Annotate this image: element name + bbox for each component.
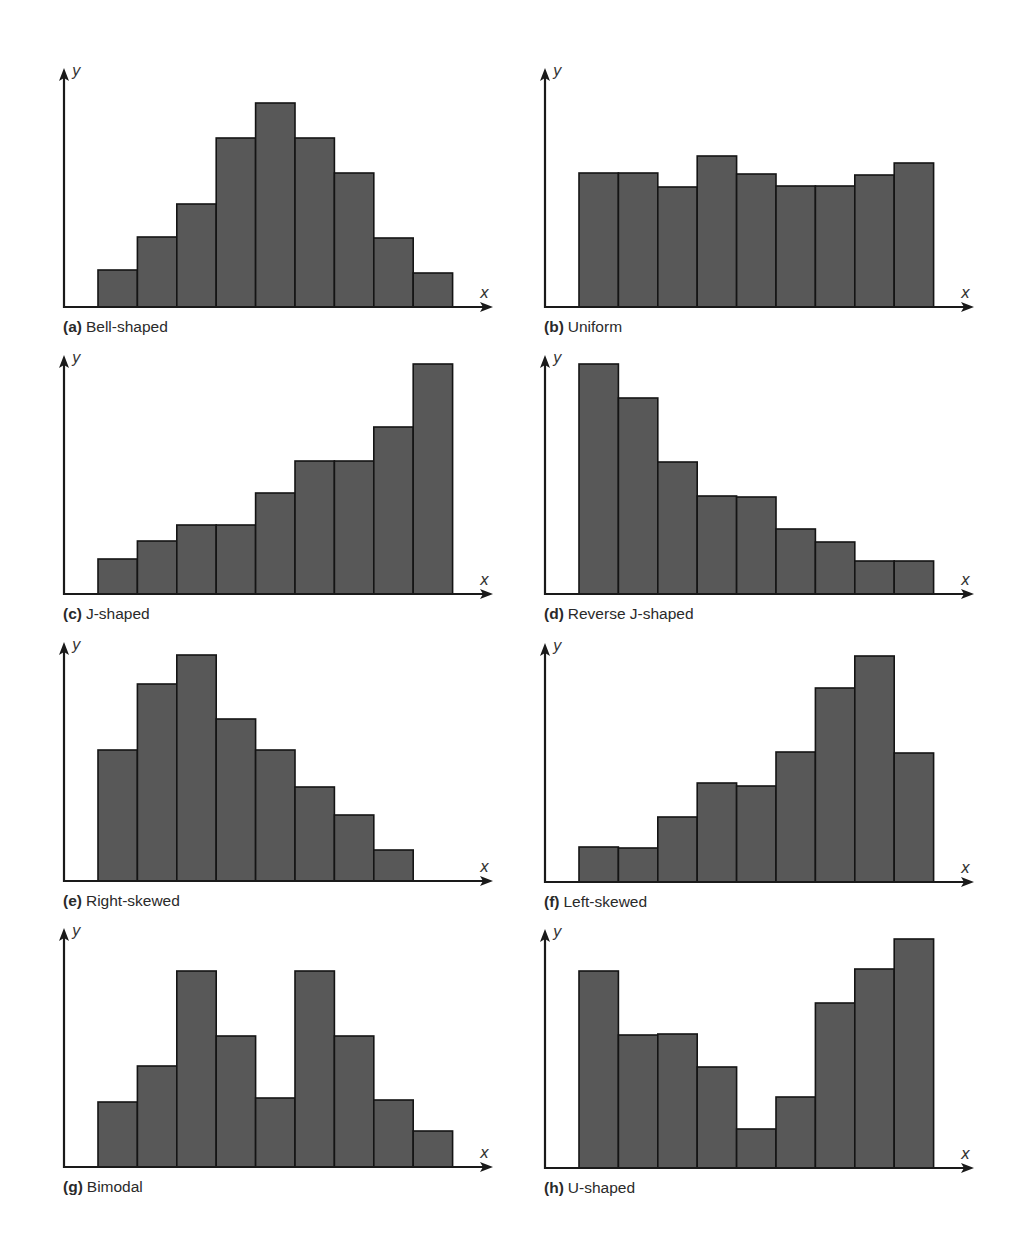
panel-caption: (c)J-shaped bbox=[63, 605, 150, 623]
panel-e: yx(e)Right-skewed bbox=[50, 636, 520, 921]
histogram-bar bbox=[334, 815, 373, 881]
histogram-bar bbox=[737, 1129, 776, 1168]
histogram-bar bbox=[137, 541, 176, 594]
histogram-plot bbox=[531, 62, 1001, 347]
histogram-bar bbox=[216, 1036, 255, 1167]
histogram-plot bbox=[50, 349, 520, 634]
histogram-bar bbox=[334, 1036, 373, 1167]
caption-tag: (e) bbox=[63, 892, 82, 909]
caption-title: U-shaped bbox=[568, 1179, 635, 1196]
histogram-bar bbox=[579, 173, 618, 307]
histogram-bar bbox=[413, 364, 452, 594]
histogram-bar bbox=[737, 174, 776, 307]
histogram-shapes-figure: yx(a)Bell-shaped yx(b)Uniform yx(c)J-sha… bbox=[0, 0, 1027, 1255]
panel-b: yx(b)Uniform bbox=[531, 62, 1001, 347]
y-axis-label: y bbox=[72, 636, 81, 654]
histogram-bar bbox=[374, 238, 413, 307]
caption-title: Bell-shaped bbox=[86, 318, 168, 335]
histogram-bar bbox=[618, 398, 657, 594]
panel-c: yx(c)J-shaped bbox=[50, 349, 520, 634]
histogram-bar bbox=[334, 173, 373, 307]
caption-tag: (d) bbox=[544, 605, 564, 622]
panel-f: yx(f)Left-skewed bbox=[531, 637, 1001, 922]
histogram-bar bbox=[216, 525, 255, 594]
histogram-bar bbox=[177, 204, 216, 307]
caption-tag: (c) bbox=[63, 605, 82, 622]
histogram-bar bbox=[98, 1102, 137, 1167]
histogram-plot bbox=[50, 636, 520, 921]
histogram-bar bbox=[256, 1098, 295, 1167]
caption-tag: (f) bbox=[544, 893, 560, 910]
x-axis-label: x bbox=[480, 284, 489, 302]
histogram-bar bbox=[894, 939, 933, 1168]
y-axis-label: y bbox=[553, 637, 562, 655]
x-axis-label: x bbox=[480, 1144, 489, 1162]
panel-caption: (e)Right-skewed bbox=[63, 892, 180, 910]
x-axis-label: x bbox=[961, 284, 970, 302]
caption-tag: (h) bbox=[544, 1179, 564, 1196]
histogram-bar bbox=[894, 753, 933, 882]
histogram-bar bbox=[894, 561, 933, 594]
histogram-bar bbox=[618, 1035, 657, 1168]
y-axis-label: y bbox=[72, 62, 81, 80]
y-axis-label: y bbox=[553, 349, 562, 367]
histogram-bar bbox=[256, 103, 295, 307]
histogram-bar bbox=[815, 688, 854, 882]
y-axis-label: y bbox=[72, 349, 81, 367]
caption-title: Right-skewed bbox=[86, 892, 180, 909]
caption-title: Reverse J-shaped bbox=[568, 605, 694, 622]
caption-title: Left-skewed bbox=[564, 893, 648, 910]
histogram-bar bbox=[618, 848, 657, 882]
panel-caption: (h)U-shaped bbox=[544, 1179, 635, 1197]
caption-title: Uniform bbox=[568, 318, 622, 335]
histogram-bar bbox=[697, 156, 736, 307]
panel-caption: (d)Reverse J-shaped bbox=[544, 605, 694, 623]
histogram-bar bbox=[334, 461, 373, 594]
histogram-bar bbox=[697, 783, 736, 882]
histogram-bar bbox=[776, 752, 815, 882]
panel-caption: (b)Uniform bbox=[544, 318, 622, 336]
histogram-bar bbox=[855, 175, 894, 307]
histogram-bar bbox=[776, 1097, 815, 1168]
histogram-plot bbox=[50, 922, 520, 1207]
histogram-bar bbox=[413, 273, 452, 307]
histogram-bar bbox=[776, 529, 815, 594]
x-axis-label: x bbox=[961, 859, 970, 877]
caption-tag: (g) bbox=[63, 1178, 83, 1195]
panel-h: yx(h)U-shaped bbox=[531, 923, 1001, 1208]
histogram-bar bbox=[815, 542, 854, 594]
x-axis-label: x bbox=[961, 571, 970, 589]
histogram-bar bbox=[658, 817, 697, 882]
histogram-bar bbox=[815, 186, 854, 307]
caption-title: J-shaped bbox=[86, 605, 150, 622]
histogram-bar bbox=[137, 684, 176, 881]
histogram-bar bbox=[737, 497, 776, 594]
histogram-bar bbox=[177, 655, 216, 881]
histogram-bar bbox=[579, 971, 618, 1168]
histogram-bar bbox=[216, 719, 255, 881]
histogram-bar bbox=[374, 1100, 413, 1167]
histogram-bar bbox=[855, 561, 894, 594]
histogram-bar bbox=[256, 493, 295, 594]
y-axis-label: y bbox=[553, 923, 562, 941]
caption-tag: (b) bbox=[544, 318, 564, 335]
histogram-bar bbox=[98, 559, 137, 594]
histogram-bar bbox=[579, 847, 618, 882]
histogram-bar bbox=[137, 1066, 176, 1167]
histogram-bar bbox=[658, 1034, 697, 1168]
histogram-bar bbox=[98, 750, 137, 881]
histogram-bar bbox=[256, 750, 295, 881]
histogram-bar bbox=[855, 656, 894, 882]
histogram-bar bbox=[177, 525, 216, 594]
caption-title: Bimodal bbox=[87, 1178, 143, 1195]
y-axis-label: y bbox=[553, 62, 562, 80]
histogram-bar bbox=[216, 138, 255, 307]
histogram-plot bbox=[531, 349, 1001, 634]
panel-d: yx(d)Reverse J-shaped bbox=[531, 349, 1001, 634]
histogram-bar bbox=[658, 462, 697, 594]
x-axis-label: x bbox=[961, 1145, 970, 1163]
panel-caption: (f)Left-skewed bbox=[544, 893, 647, 911]
histogram-bar bbox=[776, 186, 815, 307]
histogram-bar bbox=[295, 971, 334, 1167]
histogram-bar bbox=[374, 427, 413, 594]
